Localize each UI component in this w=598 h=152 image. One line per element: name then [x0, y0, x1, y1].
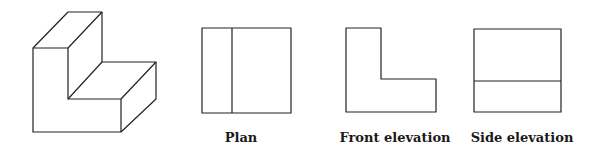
orthographic-projection-diagram: Plan Front elevation Side elevation — [0, 0, 598, 152]
side-elevation-label: Side elevation — [471, 130, 574, 145]
plan-view — [202, 28, 291, 113]
isometric-l-block — [33, 12, 156, 132]
plan-label: Plan — [225, 130, 258, 145]
side-elevation-view — [474, 29, 561, 112]
front-elevation-label: Front elevation — [339, 130, 451, 145]
front-elevation-view — [346, 28, 436, 112]
